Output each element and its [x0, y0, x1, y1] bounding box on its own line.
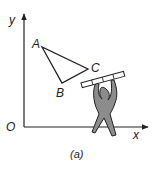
triangle-abc [42, 47, 88, 83]
x-axis-label: x [132, 128, 140, 142]
y-axis-label: y [8, 13, 16, 27]
origin-label: O [6, 120, 15, 134]
ruler-bar [81, 71, 125, 87]
diagram-canvas: y x O A B C (a) [0, 0, 156, 170]
figure-caption: (a) [70, 148, 84, 160]
vertex-b-label: B [56, 86, 64, 100]
diagram-figure: y x O A B C (a) [0, 0, 156, 170]
vertex-a-label: A [31, 37, 40, 51]
vertex-c-label: C [91, 61, 100, 75]
